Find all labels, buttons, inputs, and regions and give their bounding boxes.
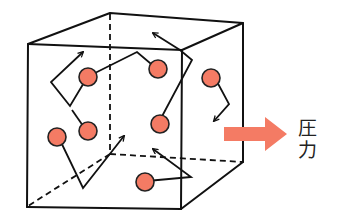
cube-front-left-edge <box>27 44 28 207</box>
cube-top-face <box>28 13 243 50</box>
gas-pressure-diagram <box>0 0 342 221</box>
hidden-edge-bottom-back <box>110 154 243 162</box>
gas-molecule <box>149 60 167 78</box>
motion-path <box>59 136 124 188</box>
molecules <box>48 60 220 191</box>
gas-molecule <box>151 115 169 133</box>
pressure-label-char-1: 圧 <box>296 117 318 139</box>
cube-front-right-edge <box>181 50 182 209</box>
pressure-label-char-2: 力 <box>296 139 318 161</box>
gas-molecule <box>48 128 66 146</box>
hidden-edge-bottom-left <box>28 154 110 206</box>
hidden-edges <box>28 14 243 206</box>
gas-molecule <box>79 122 97 140</box>
cube-container <box>27 13 243 209</box>
gas-molecule <box>79 68 97 86</box>
gas-molecule <box>202 69 220 87</box>
cube-front-bottom-edge <box>27 207 181 209</box>
motion-paths <box>51 33 229 188</box>
gas-molecule <box>136 173 154 191</box>
pressure-label: 圧 力 <box>296 117 318 161</box>
cube-bottom-right-edge <box>181 162 243 209</box>
pressure-arrow-icon <box>224 117 287 151</box>
motion-path <box>147 149 191 181</box>
